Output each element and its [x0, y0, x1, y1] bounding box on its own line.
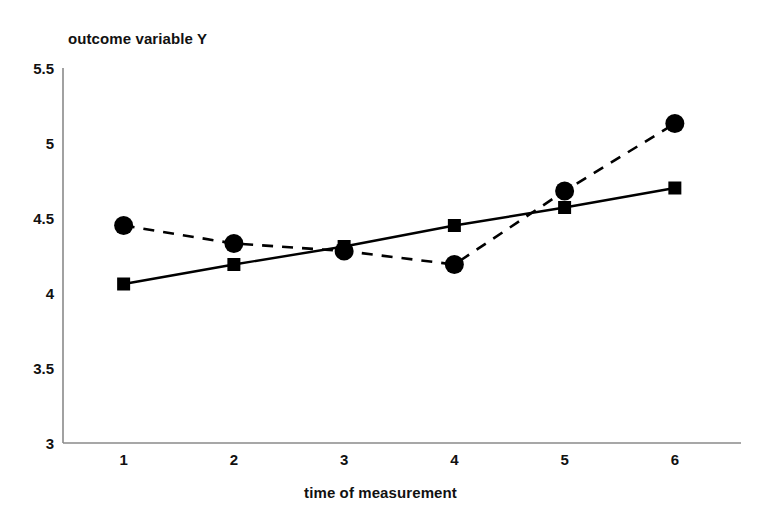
series-dashed-circle-series — [114, 114, 684, 274]
y-tick-label: 4 — [8, 285, 54, 302]
data-series-group — [114, 114, 684, 291]
data-point-square — [117, 278, 130, 291]
y-tick-label: 5 — [8, 135, 54, 152]
data-point-circle — [114, 216, 133, 235]
y-tick-label: 4.5 — [8, 210, 54, 227]
chart-plot-area — [0, 0, 761, 519]
data-point-square — [668, 182, 681, 195]
data-point-circle — [445, 255, 464, 274]
x-tick-label: 5 — [545, 451, 585, 468]
data-point-square — [558, 201, 571, 214]
data-point-square — [227, 258, 240, 271]
data-point-circle — [555, 182, 574, 201]
chart-container: outcome variable Y 33.544.555.5 123456 t… — [0, 0, 761, 519]
x-tick-label: 2 — [214, 451, 254, 468]
y-tick-label: 3 — [8, 435, 54, 452]
series-solid-square-series — [117, 182, 681, 291]
data-point-circle — [224, 234, 243, 253]
y-tick-label: 3.5 — [8, 360, 54, 377]
data-point-square — [338, 240, 351, 253]
solid-line-path — [124, 188, 675, 284]
x-tick-label: 1 — [104, 451, 144, 468]
data-point-square — [448, 219, 461, 232]
x-axis-label: time of measurement — [0, 484, 761, 501]
x-tick-label: 6 — [655, 451, 695, 468]
dashed-line-path — [124, 124, 675, 265]
data-point-circle — [665, 114, 684, 133]
y-tick-label: 5.5 — [8, 60, 54, 77]
x-tick-label: 4 — [434, 451, 474, 468]
axes — [63, 68, 741, 443]
x-tick-label: 3 — [324, 451, 364, 468]
